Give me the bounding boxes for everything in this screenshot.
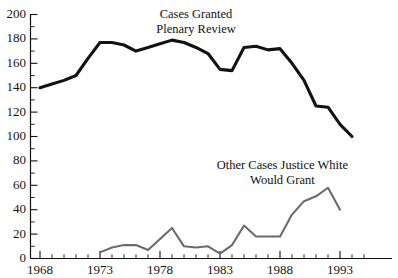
y-tick-label: 20 [13,226,26,241]
x-tick-label: 1993 [327,262,353,277]
bottom-series-label-line-2: Would Grant [250,173,315,187]
x-tick-label: 1973 [87,262,113,277]
y-tick-label: 80 [13,152,26,167]
y-axis: 020406080100120140160180200 [7,6,38,265]
y-tick-label: 40 [13,201,26,216]
data-series-group [40,40,352,254]
series-line-cases-granted-plenary-review [40,40,352,136]
line-chart: 020406080100120140160180200 196819731978… [0,0,398,278]
y-tick-label: 60 [13,177,26,192]
y-tick-label: 140 [7,79,27,94]
x-tick-label: 1983 [207,262,233,277]
y-tick-label: 120 [7,104,27,119]
annotations-group: Cases GrantedPlenary ReviewOther Cases J… [156,7,348,187]
y-tick-label: 0 [20,250,27,265]
y-tick-label: 100 [7,128,27,143]
y-tick-label: 160 [7,55,27,70]
bottom-series-label-line-1: Other Cases Justice White [217,158,349,172]
top-series-label-line-2: Plenary Review [156,22,236,36]
x-tick-label: 1968 [27,262,53,277]
x-tick-label: 1988 [267,262,293,277]
series-line-other-cases-justice-white-would-grant [100,188,340,254]
y-tick-label: 200 [7,6,27,21]
x-tick-label: 1978 [147,262,173,277]
y-tick-label: 180 [7,30,27,45]
top-series-label-line-1: Cases Granted [160,7,233,21]
chart-container: 020406080100120140160180200 196819731978… [0,0,398,278]
x-axis: 196819731978198319881993 [27,251,392,277]
